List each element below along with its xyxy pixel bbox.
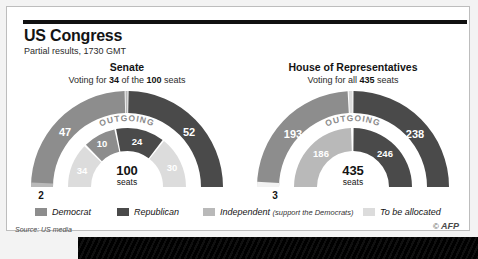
copyright-icon: © <box>433 222 439 231</box>
senate-chart: 47 52 1 2 OUTGOING <box>21 87 233 199</box>
senate-sub-contested: 34 <box>109 75 119 85</box>
senate-outer-democrat-value: 47 <box>59 126 71 138</box>
house-subtitle: Voting for all 435 seats <box>247 75 459 85</box>
senate-center-label: seats <box>117 177 137 187</box>
page-subtitle: Partial results, 1730 GMT <box>24 46 126 56</box>
legend-label-independent: Independent (support the Democrats) <box>220 207 353 217</box>
senate-inner-tba-left-value: 34 <box>77 165 88 176</box>
senate-inner-democrat-value: 10 <box>97 138 108 149</box>
senate-inner-republican-value: 24 <box>132 136 143 147</box>
house-center-label: seats <box>343 177 363 187</box>
senate-center-value: 100 <box>116 163 138 178</box>
legend-item-democrat: Democrat <box>35 207 91 217</box>
senate-header: Senate Voting for 34 of the 100 seats <box>21 61 233 85</box>
senate-sub-mid: of the <box>119 75 147 85</box>
legend-label-democrat: Democrat <box>52 207 91 217</box>
senate-title: Senate <box>21 61 233 73</box>
page-title: US Congress <box>24 27 122 45</box>
house-outer-republican-value: 238 <box>406 128 424 140</box>
house-outer-tba-value: 4 <box>347 87 353 88</box>
senate-semicircle-chart: 47 52 1 2 OUTGOING <box>21 87 233 199</box>
senate-sub-prefix: Voting for <box>68 75 109 85</box>
house-outer-vacant-value: 3 <box>272 190 278 199</box>
legend-label-independent-note: (support the Democrats) <box>273 208 354 217</box>
source-line: Source: US media <box>15 226 72 233</box>
legend-item-independent: Independent (support the Democrats) <box>203 207 353 217</box>
house-inner-democrat-value: 186 <box>313 148 329 159</box>
bottom-black-band <box>78 237 478 259</box>
house-sub-suffix: seats <box>375 75 399 85</box>
house-header: House of Representatives Voting for all … <box>247 61 459 85</box>
legend: Democrat Republican Independent (support… <box>7 207 471 223</box>
graphic-card: US Congress Partial results, 1730 GMT Se… <box>6 6 470 231</box>
senate-outer-independent <box>126 91 128 113</box>
legend-swatch-independent <box>203 208 215 216</box>
legend-swatch-democrat <box>35 208 47 216</box>
house-semicircle-chart: 193 238 4 3 Vacant OUTGOING 186 246 <box>247 87 459 199</box>
house-chart: 193 238 4 3 Vacant OUTGOING 186 246 <box>247 87 459 199</box>
house-outer-tba <box>349 91 353 113</box>
legend-label-to-be-allocated: To be allocated <box>380 207 441 217</box>
senate-outer-independent-two-value: 2 <box>38 190 44 199</box>
legend-item-to-be-allocated: To be allocated <box>363 207 441 217</box>
house-sub-prefix: Voting for all <box>307 75 359 85</box>
house-inner-republican-value: 246 <box>377 148 393 159</box>
legend-label-independent-text: Independent <box>220 207 270 217</box>
senate-outer-independent-value: 1 <box>123 87 129 88</box>
senate-sub-total: 100 <box>147 75 162 85</box>
legend-label-republican: Republican <box>134 207 179 217</box>
infographic-root: US Congress Partial results, 1730 GMT Se… <box>0 0 478 259</box>
senate-sub-suffix: seats <box>162 75 186 85</box>
house-sub-total: 435 <box>359 75 374 85</box>
house-outer-democrat-value: 193 <box>284 128 302 140</box>
legend-swatch-republican <box>117 208 129 216</box>
senate-subtitle: Voting for 34 of the 100 seats <box>21 75 233 85</box>
senate-inner-tba-right-value: 30 <box>167 162 178 173</box>
legend-item-republican: Republican <box>117 207 179 217</box>
top-rule-divider <box>23 20 467 24</box>
senate-outer-republican-value: 52 <box>183 126 195 138</box>
house-center-value: 435 <box>342 163 364 178</box>
afp-credit: © AFP <box>433 221 459 231</box>
legend-swatch-to-be-allocated <box>363 208 375 216</box>
house-title: House of Representatives <box>247 61 459 73</box>
afp-logo-text: AFP <box>441 221 459 231</box>
